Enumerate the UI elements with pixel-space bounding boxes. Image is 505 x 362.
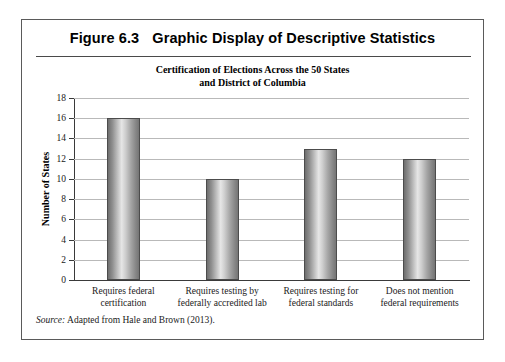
y-axis-tick: [69, 179, 74, 180]
figure-heading-text: Graphic Display of Descriptive Statistic…: [152, 30, 435, 46]
x-axis-category-label-line: federally accredited lab: [173, 297, 272, 309]
y-axis-tick-label: 6: [61, 214, 66, 224]
y-axis-tick-label: 4: [61, 235, 66, 245]
x-axis-category-label: Does not mentionfederal requirements: [370, 285, 469, 309]
y-axis-tick: [69, 118, 74, 119]
figure-heading: Figure 6.3Graphic Display of Descriptive…: [22, 30, 483, 46]
source-label: Source:: [36, 315, 65, 325]
x-axis-category-label-line: Requires testing by: [173, 285, 272, 297]
y-axis-tick-label: 18: [57, 93, 67, 103]
x-axis-category-label-line: federal standards: [272, 297, 371, 309]
chart-title-line-1: Certification of Elections Across the 50…: [22, 64, 483, 77]
y-axis-tick: [69, 240, 74, 241]
y-axis-tick-label: 0: [61, 275, 66, 285]
x-axis-line: [74, 280, 470, 281]
y-axis-tick: [69, 199, 74, 200]
x-axis-category-label: Requires testing byfederally accredited …: [173, 285, 272, 309]
heading-divider-rule: [36, 56, 471, 57]
bar: [206, 179, 239, 280]
x-axis-category-label: Requires federalcertification: [74, 285, 173, 309]
y-axis-tick-label: 12: [57, 154, 67, 164]
source-text: Adapted from Hale and Brown (2013).: [67, 315, 215, 325]
figure-frame: Figure 6.3Graphic Display of Descriptive…: [21, 19, 484, 340]
y-axis-title: Number of States: [40, 152, 51, 226]
y-axis-tick-label: 2: [61, 255, 66, 265]
x-axis-category-label-line: Requires federal: [74, 285, 173, 297]
chart-title-line-2: and District of Columbia: [22, 77, 483, 90]
y-axis-tick-label: 14: [57, 133, 67, 143]
y-axis-tick: [69, 98, 74, 99]
y-axis-tick-label: 8: [61, 194, 66, 204]
chart-title: Certification of Elections Across the 50…: [22, 64, 483, 89]
x-axis-category-label-line: federal requirements: [370, 297, 469, 309]
figure-number: Figure 6.3: [70, 30, 140, 46]
y-axis-tick: [69, 219, 74, 220]
bar: [304, 149, 337, 280]
y-axis-tick-label: 16: [57, 113, 67, 123]
y-axis-tick-label: 10: [57, 174, 67, 184]
x-axis-category-label-line: certification: [74, 297, 173, 309]
x-axis-category-label-line: Requires testing for: [272, 285, 371, 297]
y-axis-tick: [69, 138, 74, 139]
y-axis-tick: [69, 280, 74, 281]
plot-area: 024681012141618: [74, 98, 469, 280]
bar: [403, 159, 436, 280]
gridline: [74, 98, 469, 99]
y-axis-tick: [69, 260, 74, 261]
x-axis-category-label: Requires testing forfederal standards: [272, 285, 371, 309]
y-axis-tick: [69, 159, 74, 160]
bar: [107, 118, 140, 280]
source-note: Source: Adapted from Hale and Brown (201…: [36, 315, 215, 325]
x-axis-category-label-line: Does not mention: [370, 285, 469, 297]
